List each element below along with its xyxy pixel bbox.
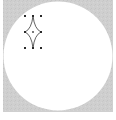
drawing-canvas[interactable] xyxy=(3,0,113,112)
handle-top-right[interactable] xyxy=(40,15,42,17)
handle-bottom-left[interactable] xyxy=(24,47,26,49)
handle-top-center[interactable] xyxy=(32,15,34,17)
handle-middle-left[interactable] xyxy=(24,31,26,33)
handle-bottom-right[interactable] xyxy=(40,47,42,49)
handle-top-left[interactable] xyxy=(24,15,26,17)
rotation-center-point[interactable] xyxy=(32,31,34,33)
handle-middle-right[interactable] xyxy=(40,31,42,33)
white-circle[interactable] xyxy=(4,2,113,111)
handle-bottom-center[interactable] xyxy=(32,47,34,49)
